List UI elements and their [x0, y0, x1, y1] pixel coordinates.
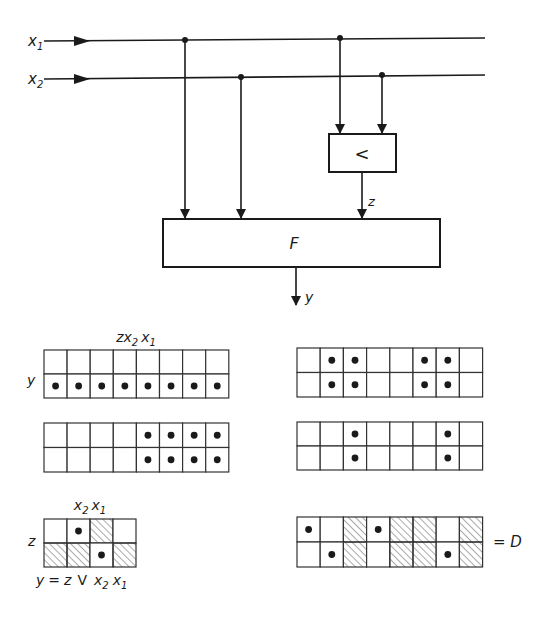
dot-marker [191, 432, 198, 439]
kmap-formula: y=zVx2x1 [35, 572, 127, 591]
dot-marker [352, 357, 359, 364]
grid-cell [136, 350, 159, 374]
dot-marker [145, 432, 152, 439]
grid-cell [459, 542, 482, 567]
function-block-label: F [289, 234, 299, 253]
grid-cell [67, 350, 90, 374]
grid-cell [113, 519, 136, 543]
grid-cell [413, 422, 436, 446]
grid-cell [67, 448, 90, 473]
grid-cell [113, 448, 136, 473]
arrow-right-icon [74, 74, 90, 84]
grid-cell [413, 446, 436, 470]
input-label-x1: x1 [27, 32, 43, 52]
grid-cell [297, 422, 320, 446]
grid-cell [113, 423, 136, 448]
dot-marker [444, 551, 451, 558]
dot-marker [444, 357, 451, 364]
dot-marker [191, 383, 198, 390]
grid-cell [297, 542, 320, 567]
grid-cell [206, 350, 229, 374]
dot-marker [305, 526, 312, 533]
grid-cell [367, 446, 390, 470]
grid-cell [459, 517, 482, 542]
truth-grid-mid-right [297, 422, 483, 470]
truth-grid-top-right [297, 348, 483, 397]
dot-marker [75, 528, 82, 535]
grid-cell [436, 517, 459, 542]
dot-marker [352, 431, 359, 438]
dot-marker [328, 551, 335, 558]
grid-cell [367, 542, 390, 567]
grid-cell [67, 543, 90, 567]
row-label-y: y [26, 372, 36, 388]
dot-marker [444, 431, 451, 438]
dot-marker [444, 455, 451, 462]
grid-cell [390, 373, 413, 398]
grid-cell [44, 423, 67, 448]
grid-cell [367, 348, 390, 373]
grid-cell [390, 517, 413, 542]
output-label-y: y [304, 289, 314, 305]
truth-grid-top-left [44, 350, 229, 398]
circuit-diagram: x1 x2 < z F y zx2x1 y x2x1 z y=zVx2x1 = … [0, 0, 547, 626]
function-block-f [163, 219, 440, 267]
grid-cell [67, 423, 90, 448]
input-label-x2: x2 [27, 70, 43, 90]
comparator-symbol: < [354, 143, 369, 164]
dot-marker [214, 456, 221, 463]
grid-cell [90, 448, 113, 473]
grid-cell [320, 422, 343, 446]
dot-marker [352, 381, 359, 388]
dot-marker [121, 383, 128, 390]
grid-cell [44, 448, 67, 473]
kmap-header: x2x1 [73, 497, 106, 516]
dot-marker [191, 456, 198, 463]
dot-marker [421, 381, 428, 388]
dot-marker [145, 456, 152, 463]
grid-cell [390, 542, 413, 567]
grid-header: zx2x1 [115, 329, 156, 348]
grid-d-label: = D [493, 533, 522, 551]
input-line-x1 [44, 36, 485, 46]
dot-marker [214, 432, 221, 439]
dot-marker [444, 381, 451, 388]
grid-cell [44, 543, 67, 567]
dot-marker [98, 552, 105, 559]
grid-cell [390, 446, 413, 470]
grid-cell [90, 423, 113, 448]
grid-cell [413, 542, 436, 567]
kmap-row-label-z: z [27, 533, 36, 549]
junction-dots [182, 35, 385, 80]
grid-cell [297, 348, 320, 373]
dot-marker [168, 383, 175, 390]
dot-marker [98, 383, 105, 390]
grid-cell [320, 446, 343, 470]
grid-cell [367, 373, 390, 398]
grid-cell [367, 422, 390, 446]
grid-cell [459, 373, 482, 398]
grid-cell [459, 422, 482, 446]
grid-cell [160, 350, 183, 374]
input-line-x2 [44, 74, 485, 84]
dot-marker [145, 383, 152, 390]
grid-cell [90, 350, 113, 374]
truth-grid-d [297, 517, 483, 567]
grid-cell [44, 350, 67, 374]
comparator-output-label: z [367, 194, 376, 209]
grid-cell [297, 373, 320, 398]
dot-marker [214, 383, 221, 390]
grid-cell [390, 422, 413, 446]
arrow-right-icon [74, 36, 90, 46]
grid-cell [343, 517, 366, 542]
kmap-grid [44, 519, 136, 567]
grid-cell [459, 446, 482, 470]
grid-cell [390, 348, 413, 373]
grid-cell [44, 519, 67, 543]
grid-cell [113, 543, 136, 567]
dot-marker [75, 383, 82, 390]
grid-cell [113, 350, 136, 374]
dot-marker [352, 455, 359, 462]
dot-marker [375, 526, 382, 533]
dot-marker [168, 456, 175, 463]
